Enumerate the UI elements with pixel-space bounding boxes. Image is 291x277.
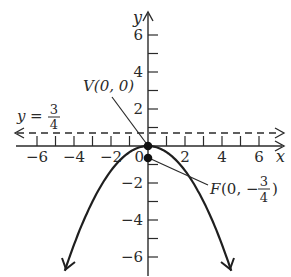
parabola-diagram: −6−4−20246 642−2−4−6 y x V(0, 0) y = 3 4… [0, 0, 291, 277]
focus-label-denominator: 4 [260, 190, 268, 205]
directrix-label-denominator: 4 [50, 117, 58, 132]
x-tick-label: −4 [63, 148, 85, 166]
x-tick-label: −6 [26, 148, 48, 166]
y-tick-label: 6 [133, 26, 143, 44]
x-tick-label: 0 [134, 148, 144, 166]
y-axis-label: y [132, 8, 143, 27]
x-tick-label: 6 [254, 148, 264, 166]
focus-label-numerator: 3 [260, 174, 268, 189]
directrix-label: y = 3 4 [16, 102, 60, 132]
x-tick-label: 2 [180, 148, 190, 166]
coordinate-plane: −6−4−20246 642−2−4−6 y x V(0, 0) y = 3 4… [0, 0, 291, 277]
directrix-label-numerator: 3 [50, 102, 58, 117]
y-tick-label: −2 [121, 174, 143, 192]
focus-label-close: ) [272, 180, 278, 198]
directrix-right-arrow-icon [275, 128, 284, 138]
y-tick-label: −6 [121, 248, 143, 266]
focus-label-prefix: F [209, 180, 221, 198]
directrix-label-eq: = [30, 107, 43, 125]
x-tick-label: −2 [100, 148, 122, 166]
directrix-label-lhs: y [16, 107, 26, 125]
y-tick-label: 2 [133, 100, 143, 118]
focus-label: F (0, − 3 4 ) [209, 174, 278, 205]
y-tick-label: 4 [133, 63, 143, 81]
x-tick-label: 4 [217, 148, 227, 166]
focus-point [144, 154, 153, 163]
vertex-label: V(0, 0) [83, 77, 134, 95]
y-tick-label: −4 [121, 211, 143, 229]
x-axis-label: x [276, 147, 285, 166]
vertex-point [144, 142, 153, 151]
focus-label-open: (0, − [221, 180, 259, 198]
